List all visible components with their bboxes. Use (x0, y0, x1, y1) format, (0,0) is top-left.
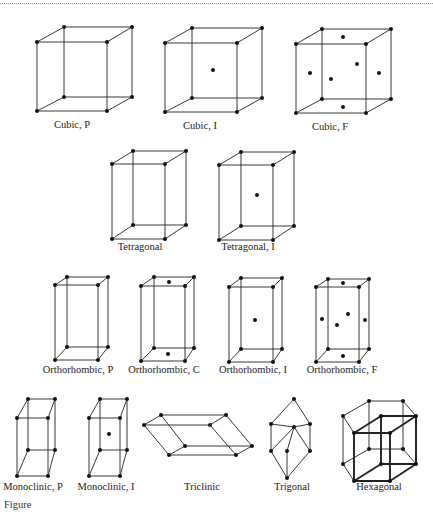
label-hexagonal: Hexagonal (356, 481, 401, 492)
lattice-trigonal (269, 397, 312, 480)
label-orthorhombic-c: Orthorhombic, C (128, 364, 200, 375)
figure-caption: Figure (4, 499, 31, 510)
label-monoclinic-p: Monoclinic, P (3, 481, 63, 492)
label-orthorhombic-i: Orthorhombic, I (219, 364, 287, 375)
label-triclinic: Triclinic (184, 481, 220, 492)
label-cubic-f: Cubic, F (312, 121, 348, 132)
label-trigonal: Trigonal (274, 481, 310, 492)
lattice-orthorhombic-c (139, 275, 196, 363)
label-cubic-p: Cubic, P (54, 119, 90, 130)
label-orthorhombic-p: Orthorhombic, P (43, 364, 114, 375)
label-tetragonal-i: Tetragonal, I (221, 241, 275, 252)
lattice-monoclinic-p (15, 397, 57, 478)
label-cubic-i: Cubic, I (183, 120, 217, 131)
lattice-orthorhombic-i (227, 276, 284, 364)
lattice-tetragonal-i (217, 150, 296, 242)
lattice-cubic-f (294, 27, 393, 115)
label-monoclinic-i: Monoclinic, I (77, 481, 134, 492)
lattice-triclinic (142, 413, 254, 457)
lattice-hexagonal (341, 399, 418, 483)
lattice-orthorhombic-f (314, 277, 371, 364)
label-orthorhombic-f: Orthorhombic, F (307, 364, 378, 375)
lattice-cubic-p (35, 25, 134, 113)
lattice-tetragonal (110, 149, 188, 241)
lattice-cubic-i (163, 26, 264, 114)
bravais-lattices-diagram (0, 0, 433, 512)
lattice-orthorhombic-p (53, 275, 110, 362)
lattice-monoclinic-i (87, 397, 129, 478)
label-tetragonal: Tetragonal (118, 241, 163, 252)
